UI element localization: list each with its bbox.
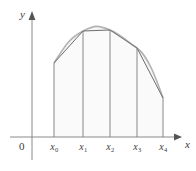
shaded-region	[54, 30, 163, 137]
tick-base-x2: x	[106, 141, 110, 152]
tick-label-x3: x3	[133, 142, 141, 152]
tick-base-x0: x	[50, 141, 54, 152]
trapezoidal-rule-figure: y x 0 x0 x1 x2 x3 x4	[0, 0, 196, 171]
tick-label-x4: x4	[159, 142, 167, 152]
tick-sub-x1: 1	[84, 146, 87, 153]
tick-sub-x4: 4	[164, 146, 167, 153]
tick-base-x4: x	[159, 141, 163, 152]
tick-sub-x2: 2	[111, 146, 114, 153]
x-axis-label: x	[185, 139, 190, 150]
tick-base-x3: x	[133, 141, 137, 152]
origin-label: 0	[19, 141, 25, 152]
tick-label-x2: x2	[106, 142, 114, 152]
tick-sub-x0: 0	[55, 146, 58, 153]
y-axis-arrow-icon	[29, 11, 36, 20]
tick-base-x1: x	[79, 141, 83, 152]
tick-sub-x3: 3	[138, 146, 141, 153]
tick-label-x1: x1	[79, 142, 87, 152]
y-axis-label: y	[20, 9, 25, 20]
tick-label-x0: x0	[50, 142, 58, 152]
x-axis-arrow-icon	[174, 134, 182, 141]
